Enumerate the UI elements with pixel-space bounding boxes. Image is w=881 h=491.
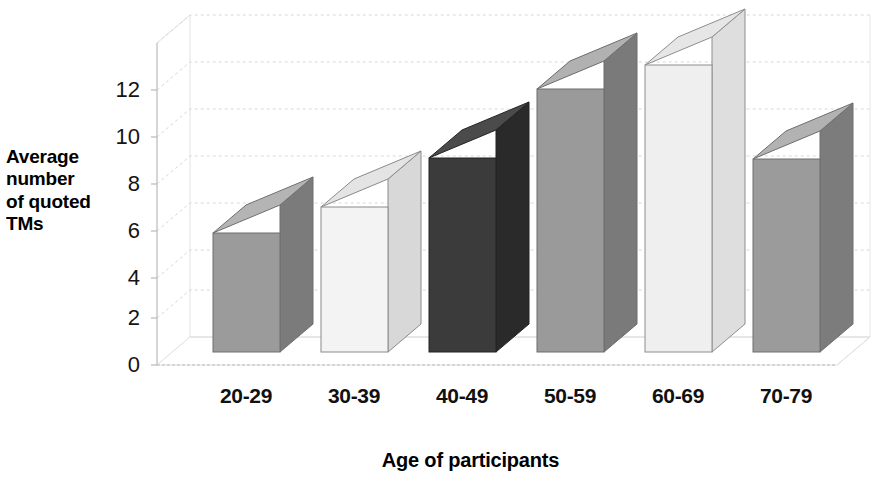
bar-front-face [321,207,388,352]
x-tick-label-40-49: 40-49 [407,384,517,408]
bar-side-face [820,103,853,352]
bar-side-face [280,177,313,352]
y-tick-label-0: 0 [100,352,140,378]
x-tick-label-50-59: 50-59 [515,384,625,408]
bar-front-face [753,159,820,352]
bar-front-face [213,233,280,352]
bar-front-face [537,89,604,352]
x-tick-label-70-79: 70-79 [731,384,841,408]
bar-side-face [712,9,745,352]
y-tick-label-4: 4 [100,265,140,291]
x-axis-title-text: Age of participants [322,449,559,472]
y-tick-label-8: 8 [100,171,140,197]
x-tick-label-20-29: 20-29 [191,384,301,408]
y-tick-label-6: 6 [100,218,140,244]
y-tick-label-2: 2 [100,305,140,331]
bar-side-face [496,102,529,352]
x-tick-label-60-69: 60-69 [623,384,733,408]
left-wall [157,15,190,365]
x-axis-title: Age of participants [0,449,881,472]
chart-canvas [0,0,881,491]
y-tick-label-12: 12 [100,77,140,103]
x-tick-label-30-39: 30-39 [299,384,409,408]
bar-front-face [645,65,712,352]
bar-chart: Average number of quoted TMs 0 2 4 6 8 1… [0,0,881,491]
y-ticks [151,90,157,365]
y-tick-label-10: 10 [100,124,140,150]
bar-front-face [429,158,496,352]
bar-side-face [388,151,421,352]
bar-side-face [604,33,637,352]
